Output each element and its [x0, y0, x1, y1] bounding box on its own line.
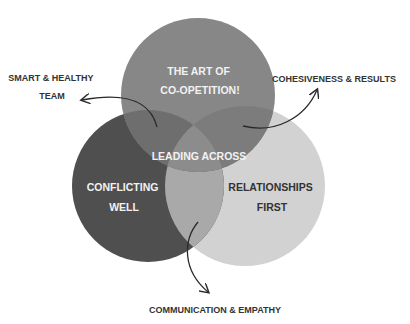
outcome-communication-empathy: COMMUNICATION & EMPATHY: [149, 305, 281, 315]
center-label: LEADING ACROSS: [152, 150, 247, 162]
venn-diagram: THE ART OF CO-OPETITION! LEADING ACROSS …: [0, 0, 410, 324]
outcome-smart-healthy-team: SMART & HEALTHY TEAM: [8, 73, 96, 101]
outcome-cohesiveness-results: COHESIVENESS & RESULTS: [272, 74, 396, 84]
